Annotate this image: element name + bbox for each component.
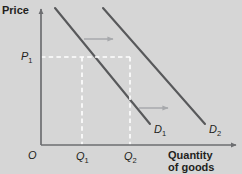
x-tick-label-q2-sub: 2 [133, 156, 137, 165]
x-tick-label-q2: Q2 [124, 151, 137, 165]
x-axis-title-line2: of goods [168, 161, 214, 173]
curve-label-d1-sub: 1 [162, 129, 166, 138]
y-axis-title: Price [2, 5, 29, 16]
origin-label: O [28, 150, 37, 161]
curve-label-d2: D2 [209, 124, 221, 138]
x-tick-label-q1-base: Q [76, 150, 85, 162]
y-tick-label-p1-sub: 1 [28, 56, 32, 65]
y-tick-label-p1: P1 [21, 51, 33, 65]
diagram-canvas [0, 0, 242, 174]
demand-shift-diagram: Price Quantityof goods P1 O Q1 Q2 D1 D2 [0, 0, 242, 174]
curve-label-d1-base: D [154, 123, 162, 135]
curve-label-d2-base: D [209, 123, 217, 135]
x-tick-label-q1-sub: 1 [85, 156, 89, 165]
x-tick-label-q2-base: Q [124, 150, 133, 162]
x-axis-title: Quantityof goods [168, 150, 240, 173]
curve-label-d1: D1 [154, 124, 166, 138]
x-axis-title-line1: Quantity [168, 149, 213, 161]
x-tick-label-q1: Q1 [76, 151, 89, 165]
curve-label-d2-sub: 2 [217, 129, 221, 138]
